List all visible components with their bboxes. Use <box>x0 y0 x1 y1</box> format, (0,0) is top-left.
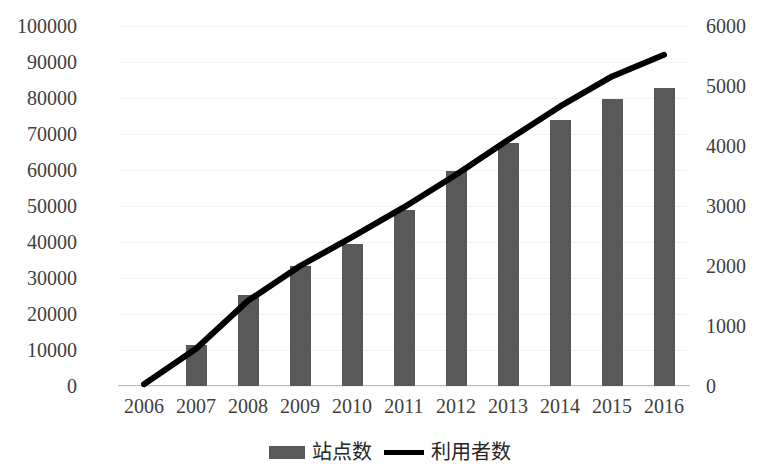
left-axis-tick-label: 10000 <box>27 340 77 360</box>
line-swatch-icon <box>384 450 424 455</box>
gridline <box>118 386 690 387</box>
bar <box>498 143 519 386</box>
legend-label-bar: 站点数 <box>312 442 372 462</box>
bar <box>550 120 571 386</box>
chart-container: 0100002000030000400005000060000700008000… <box>0 0 779 472</box>
right-axis-tick-label: 3000 <box>706 196 746 216</box>
left-axis-tick-label: 0 <box>67 376 77 396</box>
x-axis-tick-label: 2015 <box>582 396 642 416</box>
x-axis-tick-label: 2007 <box>166 396 226 416</box>
bar <box>446 171 467 386</box>
left-axis-tick-label: 60000 <box>27 160 77 180</box>
bar <box>238 295 259 386</box>
right-axis-tick-label: 0 <box>706 376 716 396</box>
bar <box>394 210 415 386</box>
chart-legend: 站点数 利用者数 <box>0 442 779 462</box>
left-axis-tick-label: 40000 <box>27 232 77 252</box>
right-axis-tick-label: 1000 <box>706 316 746 336</box>
left-axis-tick-label: 50000 <box>27 196 77 216</box>
left-axis-tick-label: 20000 <box>27 304 77 324</box>
plot-area <box>118 26 690 386</box>
bar <box>290 266 311 386</box>
gridline <box>118 62 690 63</box>
right-axis-tick-label: 4000 <box>706 136 746 156</box>
gridline <box>118 26 690 27</box>
x-axis-tick-label: 2011 <box>374 396 434 416</box>
right-axis-tick-label: 2000 <box>706 256 746 276</box>
right-axis-tick-label: 6000 <box>706 16 746 36</box>
bar-swatch-icon <box>269 446 305 459</box>
legend-item-line[interactable]: 利用者数 <box>384 442 511 462</box>
right-axis-tick-label: 5000 <box>706 76 746 96</box>
left-axis-tick-label: 90000 <box>27 52 77 72</box>
bar <box>602 99 623 386</box>
x-axis-tick-label: 2014 <box>530 396 590 416</box>
x-axis-tick-label: 2013 <box>478 396 538 416</box>
x-axis-tick-label: 2010 <box>322 396 382 416</box>
legend-item-bar[interactable]: 站点数 <box>269 442 372 462</box>
bar <box>654 88 675 386</box>
x-axis-tick-label: 2009 <box>270 396 330 416</box>
bar <box>186 345 207 386</box>
left-axis-tick-label: 80000 <box>27 88 77 108</box>
left-axis-tick-label: 30000 <box>27 268 77 288</box>
x-axis-tick-label: 2008 <box>218 396 278 416</box>
x-axis-tick-label: 2006 <box>114 396 174 416</box>
bar <box>342 244 363 386</box>
x-axis-tick-label: 2016 <box>634 396 694 416</box>
left-axis-tick-label: 70000 <box>27 124 77 144</box>
x-axis-tick-label: 2012 <box>426 396 486 416</box>
legend-label-line: 利用者数 <box>431 442 511 462</box>
left-axis-tick-label: 100000 <box>17 16 77 36</box>
